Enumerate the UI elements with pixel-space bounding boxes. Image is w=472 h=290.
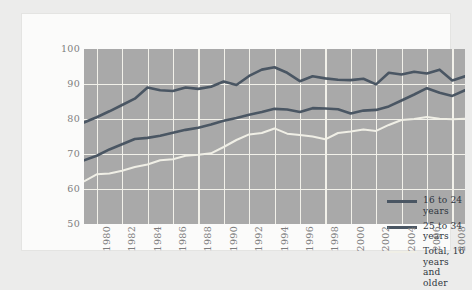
x-tick-label: 1980: [101, 226, 112, 251]
y-tick-label: 100: [54, 43, 80, 54]
x-tick-label: 2002: [380, 226, 391, 251]
series-line: [84, 117, 465, 181]
x-tick-label: 2000: [355, 226, 366, 251]
y-tick-label: 90: [54, 78, 80, 89]
y-tick-label: 80: [54, 113, 80, 124]
x-tick-label: 1982: [126, 226, 137, 251]
x-tick-label: 1988: [202, 226, 213, 251]
series-line: [84, 88, 465, 160]
x-tick-label: 1996: [304, 226, 315, 251]
x-tick-label: 1992: [253, 226, 264, 251]
x-tick-label: 2006: [431, 226, 442, 251]
x-tick-label: 2004: [406, 226, 417, 251]
x-tick-label: 2008: [456, 226, 467, 251]
legend-swatch: [387, 200, 417, 203]
x-tick-label: 1990: [228, 226, 239, 251]
x-tick-label: 1986: [177, 226, 188, 251]
y-tick-label: 50: [54, 218, 80, 229]
x-axis-labels: 1980198219841986198819901992199419961998…: [84, 226, 465, 272]
y-tick-label: 60: [54, 183, 80, 194]
x-tick-label: 1994: [279, 226, 290, 251]
y-axis-labels: 5060708090100: [52, 49, 80, 224]
y-tick-label: 70: [54, 148, 80, 159]
x-tick-label: 1998: [329, 226, 340, 251]
series-line: [84, 67, 465, 122]
chart-card: 5060708090100 16 to 24 years25 to 34 yea…: [22, 14, 450, 250]
legend-label: 16 to 24 years: [423, 195, 465, 216]
x-tick-label: 1984: [152, 226, 163, 251]
legend-item: 16 to 24 years: [387, 195, 465, 216]
plot-area: 16 to 24 years25 to 34 yearsTotal, 16 ye…: [84, 49, 465, 224]
